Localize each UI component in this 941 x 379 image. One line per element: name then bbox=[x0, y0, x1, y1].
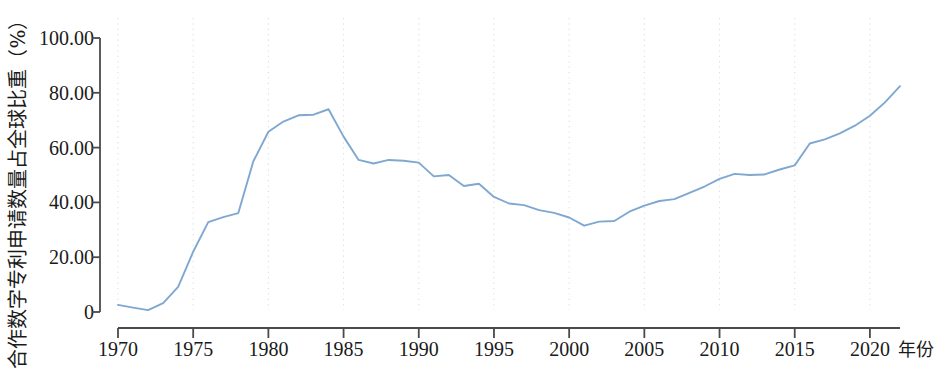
x-tick-label: 1970 bbox=[98, 338, 138, 360]
x-tick-label: 1980 bbox=[248, 338, 288, 360]
x-tick-label: 2020 bbox=[850, 338, 890, 360]
axis-spines bbox=[100, 38, 900, 328]
x-axis-tick-labels: 1970197519801985199019952000200520102015… bbox=[0, 338, 941, 368]
x-tick-label: 1985 bbox=[324, 338, 364, 360]
chart-figure: 合作数字专利申请数量占全球比重（%） 020.0040.0060.0080.00… bbox=[0, 0, 941, 379]
y-axis-ticks bbox=[92, 38, 100, 312]
x-tick-label: 1995 bbox=[474, 338, 514, 360]
x-tick-label: 2000 bbox=[549, 338, 589, 360]
x-axis-title: 年份 bbox=[898, 340, 934, 360]
plot-area bbox=[0, 0, 941, 379]
data-series-line bbox=[118, 86, 900, 310]
x-axis-ticks bbox=[118, 328, 870, 338]
x-tick-label: 1990 bbox=[399, 338, 439, 360]
x-tick-label: 1975 bbox=[173, 338, 213, 360]
x-tick-label: 2010 bbox=[700, 338, 740, 360]
gridlines bbox=[118, 18, 870, 310]
x-tick-label: 2005 bbox=[624, 338, 664, 360]
x-tick-label: 2015 bbox=[775, 338, 815, 360]
